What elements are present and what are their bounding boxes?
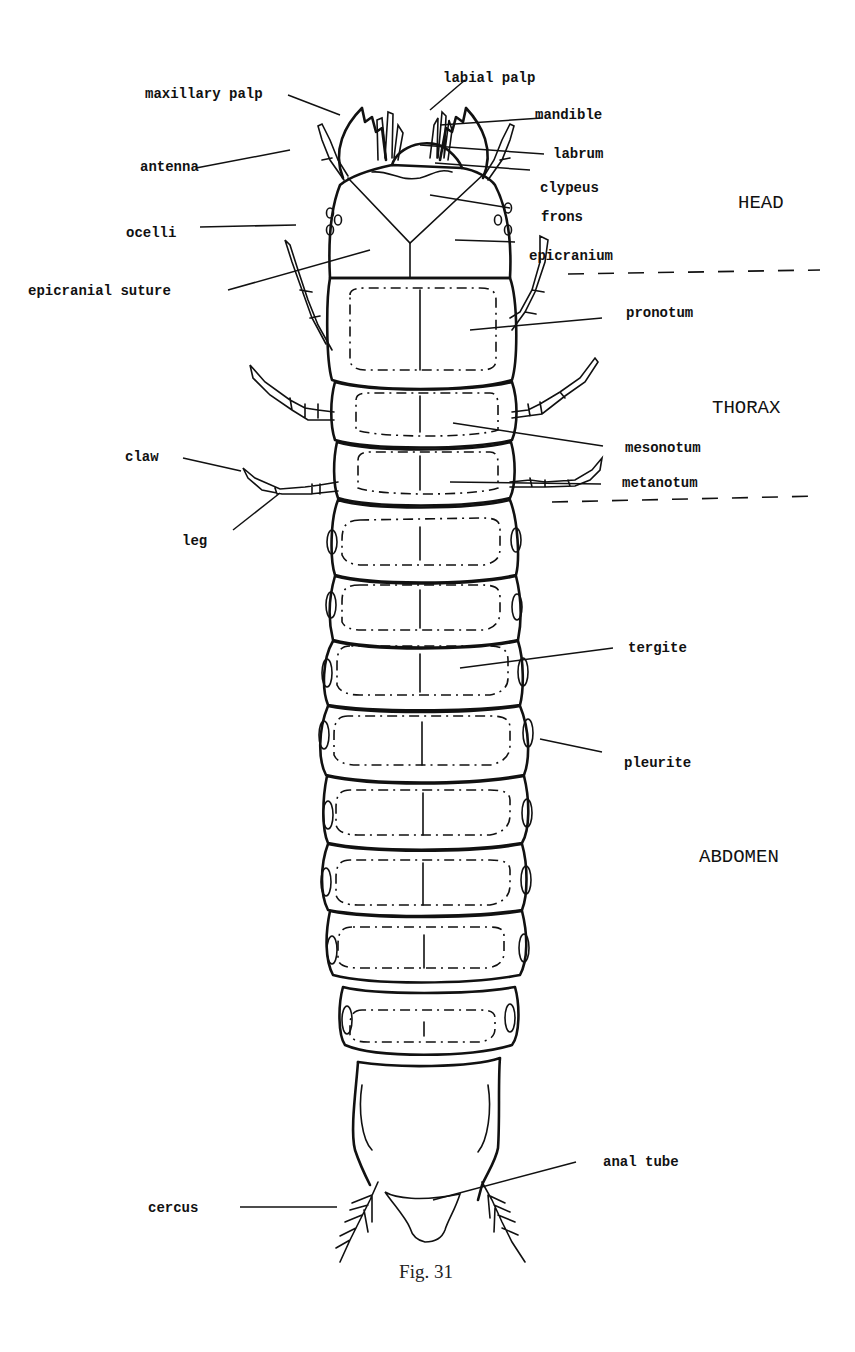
label-pronotum: pronotum [626, 305, 693, 321]
figure-caption: Fig. 31 [399, 1261, 453, 1282]
anal-tube [385, 1192, 460, 1242]
labels: maxillary palp labial palp mandible ante… [28, 70, 701, 1216]
abdominal-segment-3 [322, 641, 528, 710]
label-tergite: tergite [628, 640, 687, 656]
label-labial-palp: labial palp [443, 70, 535, 86]
clypeus [372, 171, 452, 179]
head [318, 108, 514, 278]
leg-meso-right [512, 358, 598, 418]
abdominal-segment-6 [321, 844, 531, 916]
label-clypeus: clypeus [540, 180, 599, 196]
region-label-head: HEAD [738, 192, 784, 214]
abdominal-segment-7 [327, 911, 529, 983]
thorax-abdomen-divider [552, 496, 820, 502]
leg-pro-left [285, 240, 332, 350]
label-maxillary-palp: maxillary palp [145, 86, 263, 102]
cercus-left [336, 1182, 378, 1262]
label-ocelli: ocelli [126, 225, 176, 241]
frons-outline [348, 172, 486, 243]
thorax [243, 236, 602, 506]
pronotum [327, 278, 516, 389]
abdominal-segment-1 [327, 500, 521, 583]
label-epicranium: epicranium [529, 248, 613, 264]
terminal-segment [353, 1058, 500, 1200]
label-frons: frons [541, 209, 583, 225]
larva-anatomy-diagram: HEAD THORAX ABDOMEN maxillary palp labia… [0, 0, 855, 1352]
label-metanotum: metanotum [622, 475, 698, 491]
label-cercus: cercus [148, 1200, 198, 1216]
abdomen [319, 500, 533, 1262]
mesonotum [331, 382, 516, 448]
region-label-thorax: THORAX [712, 397, 781, 419]
abdominal-segment-8 [339, 987, 518, 1055]
abdominal-segment-4 [319, 706, 533, 783]
label-mesonotum: mesonotum [625, 440, 701, 456]
head-capsule [329, 165, 510, 278]
leg-meta-left [243, 468, 338, 494]
head-thorax-divider [568, 270, 820, 274]
abdominal-segment-5 [323, 776, 532, 850]
label-pleurite: pleurite [624, 755, 691, 771]
label-labrum: labrum [553, 146, 603, 162]
leg-meso-left [250, 365, 334, 420]
label-leg: leg [182, 533, 207, 549]
region-label-abdomen: ABDOMEN [699, 846, 779, 868]
label-claw: claw [125, 449, 159, 465]
ocelli-left [327, 208, 342, 235]
label-antenna: antenna [140, 159, 199, 175]
label-mandible: mandible [535, 107, 602, 123]
label-epicranial-suture: epicranial suture [28, 283, 171, 299]
label-anal-tube: anal tube [603, 1154, 679, 1170]
abdominal-segment-2 [326, 576, 522, 648]
cercus-right [482, 1182, 525, 1262]
